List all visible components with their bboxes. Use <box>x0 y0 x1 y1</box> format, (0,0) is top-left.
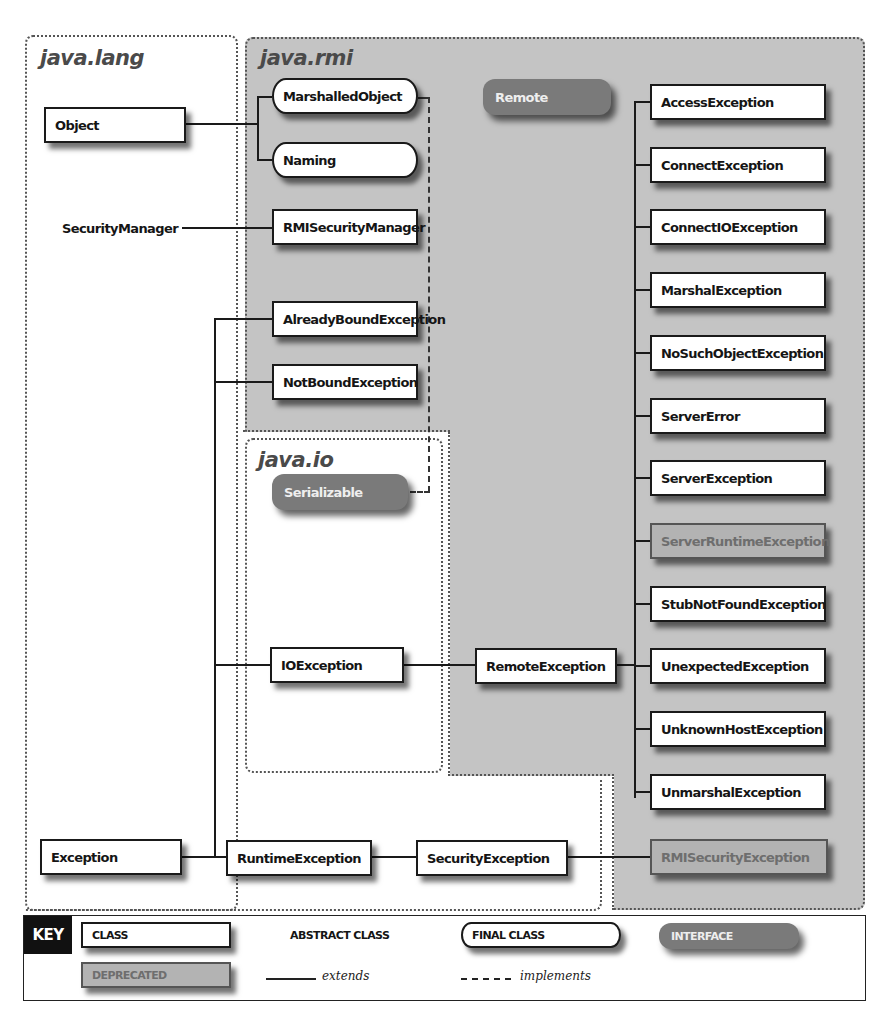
abstract-class-security-manager[interactable]: SecurityManager <box>44 210 182 246</box>
edge-remote-subclass <box>634 352 650 354</box>
node-label: RemoteException <box>486 659 605 674</box>
class-server-error[interactable]: ServerError <box>650 398 826 434</box>
deprecated-rmi-security-exception[interactable]: RMISecurityException <box>650 839 828 875</box>
class-unknown-host-exception[interactable]: UnknownHostException <box>650 711 826 747</box>
node-label: Naming <box>283 153 336 168</box>
class-object[interactable]: Object <box>44 107 186 143</box>
deprecated-server-runtime-exception[interactable]: ServerRuntimeException <box>650 523 826 559</box>
rmi-cutout-edge <box>448 774 614 776</box>
node-label: ServerError <box>661 409 740 424</box>
key-interface-label: INTERFACE <box>671 930 733 943</box>
edge-object-branch <box>257 96 259 159</box>
node-label: RMISecurityException <box>661 850 809 865</box>
edge-remote-trunk <box>615 664 634 666</box>
node-label: ConnectIOException <box>661 220 798 235</box>
interface-serializable[interactable]: Serializable <box>272 474 408 510</box>
class-already-bound-exception[interactable]: AlreadyBoundException <box>272 301 418 337</box>
key-final-label: FINAL CLASS <box>472 929 545 942</box>
key-interface: INTERFACE <box>659 923 799 949</box>
edge-security-exception <box>567 856 650 858</box>
legend-key: KEY CLASS ABSTRACT CLASS FINAL CLASS INT… <box>23 915 866 1001</box>
node-label: RuntimeException <box>237 851 361 866</box>
node-label: ServerRuntimeException <box>661 534 830 549</box>
node-label: ConnectException <box>661 158 783 173</box>
edge-already-bound <box>214 318 272 320</box>
package-title-java-io: java.io <box>258 448 333 472</box>
edge-remote-vertical <box>634 102 636 798</box>
node-label: UnexpectedException <box>661 659 809 674</box>
class-stub-not-found-exception[interactable]: StubNotFoundException <box>650 586 826 622</box>
edge-remote-subclass <box>634 540 650 542</box>
node-label: NoSuchObjectException <box>661 346 823 361</box>
edge-exception-trunk <box>214 318 216 856</box>
edge-not-bound <box>214 381 272 383</box>
interface-remote[interactable]: Remote <box>483 79 611 115</box>
node-label: IOException <box>281 658 362 673</box>
class-not-bound-exception[interactable]: NotBoundException <box>272 364 418 400</box>
final-class-marshalled-object[interactable]: MarshalledObject <box>272 78 418 114</box>
class-rmi-security-manager[interactable]: RMISecurityManager <box>272 209 418 245</box>
edge-io-exception <box>214 664 270 666</box>
key-deprecated: DEPRECATED <box>81 962 231 988</box>
key-abstract-label: ABSTRACT CLASS <box>290 929 389 942</box>
class-unexpected-exception[interactable]: UnexpectedException <box>650 648 826 684</box>
edge-remote-subclass <box>634 791 650 793</box>
edge-remote-subclass <box>634 226 650 228</box>
class-connect-ioexception[interactable]: ConnectIOException <box>650 209 826 245</box>
key-extends-line-icon <box>266 978 316 980</box>
key-implements-label: implements <box>520 969 591 983</box>
edge-naming <box>257 159 272 161</box>
edge-remote-subclass <box>634 477 650 479</box>
node-label: AlreadyBoundException <box>283 312 445 327</box>
node-label: StubNotFoundException <box>661 597 826 612</box>
edge-marshalled <box>257 96 272 98</box>
edge-remote-subclass <box>634 728 650 730</box>
edge-remote-subclass <box>634 101 650 103</box>
node-label: UnknownHostException <box>661 722 823 737</box>
node-label: Serializable <box>284 485 362 500</box>
key-extends-label: extends <box>322 969 369 983</box>
edge-remote-subclass <box>634 415 650 417</box>
node-label: MarshalledObject <box>283 89 402 104</box>
package-title-java-rmi: java.rmi <box>260 46 353 70</box>
node-label: AccessException <box>661 95 774 110</box>
class-connect-exception[interactable]: ConnectException <box>650 147 826 183</box>
class-exception[interactable]: Exception <box>40 839 182 875</box>
edge-object <box>186 123 257 125</box>
class-access-exception[interactable]: AccessException <box>650 84 826 120</box>
class-server-exception[interactable]: ServerException <box>650 460 826 496</box>
edge-remote-subclass <box>634 164 650 166</box>
class-io-exception[interactable]: IOException <box>270 647 404 683</box>
node-label: ServerException <box>661 471 772 486</box>
edge-remote-subclass <box>634 665 650 667</box>
node-label: Exception <box>51 850 118 865</box>
node-label: SecurityManager <box>62 221 178 236</box>
package-title-java-lang: java.lang <box>40 46 144 70</box>
class-runtime-exception[interactable]: RuntimeException <box>226 840 372 876</box>
class-marshal-exception[interactable]: MarshalException <box>650 272 826 308</box>
edge-runtime <box>370 856 416 858</box>
implements-serializable <box>410 491 430 493</box>
key-implements-line-icon <box>461 978 511 980</box>
class-remote-exception[interactable]: RemoteException <box>475 648 617 684</box>
key-title: KEY <box>24 916 72 954</box>
class-no-such-object-exception[interactable]: NoSuchObjectException <box>650 335 826 371</box>
implements-vertical <box>428 97 430 492</box>
key-class-label: CLASS <box>92 929 128 942</box>
edge-remote-subclass <box>634 603 650 605</box>
final-class-naming[interactable]: Naming <box>272 142 418 178</box>
rmi-cutout-edge <box>243 430 450 432</box>
key-abstract-class: ABSTRACT CLASS <box>272 922 434 948</box>
key-class: CLASS <box>81 922 231 948</box>
node-label: UnmarshalException <box>661 785 801 800</box>
key-final-class: FINAL CLASS <box>461 922 621 948</box>
edge-security-manager <box>182 227 272 229</box>
node-label: Remote <box>495 90 548 105</box>
edge-exception <box>182 856 226 858</box>
node-label: SecurityException <box>427 851 549 866</box>
node-label: NotBoundException <box>283 375 417 390</box>
class-security-exception[interactable]: SecurityException <box>416 840 568 876</box>
class-unmarshal-exception[interactable]: UnmarshalException <box>650 774 826 810</box>
rmi-cutout-edge <box>448 432 450 776</box>
node-label: MarshalException <box>661 283 782 298</box>
